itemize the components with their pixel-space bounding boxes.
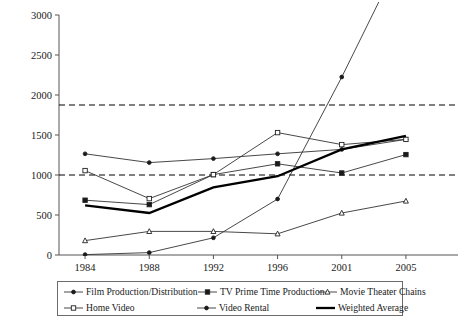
data-point-home-video xyxy=(340,142,344,146)
y-tick-label: 2000 xyxy=(31,90,52,101)
open-square-marker-icon xyxy=(64,303,83,313)
chart-figure: 0500100015002000250030001984198819921996… xyxy=(0,0,460,327)
line-chart-canvas: 0500100015002000250030001984198819921996… xyxy=(0,0,460,272)
x-tick-label: 1996 xyxy=(267,262,288,272)
chart-legend: Film Production/Distribution TV Prime Ti… xyxy=(57,281,403,316)
data-point-home-video xyxy=(404,137,408,141)
plot-area: 0500100015002000250030001984198819921996… xyxy=(0,0,460,272)
legend-label: Weighted Average xyxy=(338,303,408,313)
data-point-video-rental xyxy=(340,75,344,79)
filled-square-marker-icon xyxy=(198,287,217,297)
legend-label: Film Production/Distribution xyxy=(86,287,198,297)
series-line-video-rental xyxy=(85,0,406,255)
y-tick-label: 500 xyxy=(36,210,52,221)
x-tick-label: 1992 xyxy=(203,262,224,272)
y-tick-label: 1500 xyxy=(31,130,52,141)
series-line-tv-prime-time-production xyxy=(85,155,406,205)
legend-item-film-production-distribution[interactable]: Film Production/Distribution xyxy=(58,287,192,297)
open-triangle-marker-icon xyxy=(318,287,337,297)
data-point-movie-theater-chains xyxy=(403,198,408,203)
x-tick-label: 1988 xyxy=(139,262,160,272)
data-point-home-video xyxy=(211,172,215,176)
series-line-movie-theater-chains xyxy=(85,201,406,241)
legend-item-movie-theater-chains[interactable]: Movie Theater Chains xyxy=(312,287,404,297)
data-point-tv-prime-time-production xyxy=(340,171,344,175)
x-tick-label: 2001 xyxy=(331,262,352,272)
series-group xyxy=(83,0,409,256)
data-point-home-video xyxy=(83,168,87,172)
legend-item-home-video[interactable]: Home Video xyxy=(58,303,191,313)
legend-label: TV Prime Time Production xyxy=(220,287,325,297)
y-tick-label: 2500 xyxy=(31,50,52,61)
data-point-video-rental xyxy=(276,197,280,201)
legend-item-video-rental[interactable]: Video Rental xyxy=(191,303,310,313)
data-point-home-video xyxy=(147,196,151,200)
data-point-tv-prime-time-production xyxy=(275,162,279,166)
data-point-movie-theater-chains xyxy=(83,238,88,243)
data-point-video-rental xyxy=(212,236,216,240)
legend-item-tv-prime-time-production[interactable]: TV Prime Time Production xyxy=(192,287,312,297)
y-tick-label: 1000 xyxy=(31,170,52,181)
legend-label: Home Video xyxy=(86,303,135,313)
filled-diamond-marker-icon xyxy=(64,287,83,297)
data-point-movie-theater-chains xyxy=(339,210,344,215)
x-tick-label: 2005 xyxy=(395,262,416,272)
data-point-film-production-distribution xyxy=(147,161,151,165)
legend-row-1: Film Production/Distribution TV Prime Ti… xyxy=(58,284,402,300)
data-point-movie-theater-chains xyxy=(211,229,216,234)
data-point-tv-prime-time-production xyxy=(404,152,408,156)
data-point-home-video xyxy=(275,130,279,134)
data-point-tv-prime-time-production xyxy=(83,198,87,202)
legend-item-weighted-average[interactable]: Weighted Average xyxy=(310,303,402,313)
series-line-home-video xyxy=(85,133,406,199)
data-point-video-rental xyxy=(83,253,87,257)
legend-label: Movie Theater Chains xyxy=(340,287,426,297)
legend-label: Video Rental xyxy=(219,303,269,313)
data-point-video-rental xyxy=(147,251,151,255)
x-tick-label: 1984 xyxy=(75,262,97,272)
filled-circle-marker-icon xyxy=(197,303,216,313)
data-point-movie-theater-chains xyxy=(147,229,152,234)
data-point-film-production-distribution xyxy=(276,152,280,156)
y-tick-label: 0 xyxy=(47,250,52,261)
legend-row-2: Home Video Video Rental Weighted Average xyxy=(58,300,402,316)
thick-line-marker-icon xyxy=(316,303,335,313)
data-point-film-production-distribution xyxy=(83,152,87,156)
data-point-film-production-distribution xyxy=(212,157,216,161)
data-point-movie-theater-chains xyxy=(275,231,280,236)
data-point-tv-prime-time-production xyxy=(147,202,151,206)
y-tick-label: 3000 xyxy=(31,10,52,21)
